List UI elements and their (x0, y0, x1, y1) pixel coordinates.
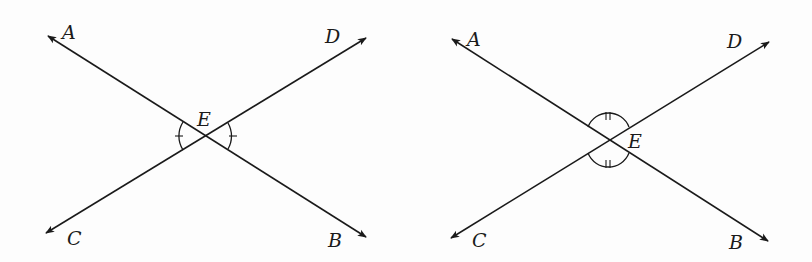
figure-left: A D C B E (46, 21, 366, 251)
angle-arc-aed (588, 113, 629, 127)
line-cd (46, 38, 366, 233)
label-c: C (67, 227, 82, 249)
diagram-canvas: A D C B E A D C B E (0, 0, 812, 262)
label-d: D (726, 30, 742, 52)
label-b: B (327, 229, 342, 251)
label-b: B (728, 231, 743, 253)
label-c: C (472, 229, 487, 251)
label-d: D (324, 25, 340, 47)
angle-arc-ceb (588, 153, 629, 167)
label-a: A (60, 21, 76, 43)
label-e: E (196, 108, 211, 130)
label-e: E (627, 130, 642, 152)
figure-right: A D C B E (451, 28, 769, 253)
line-cd (451, 42, 769, 238)
label-a: A (465, 28, 481, 50)
